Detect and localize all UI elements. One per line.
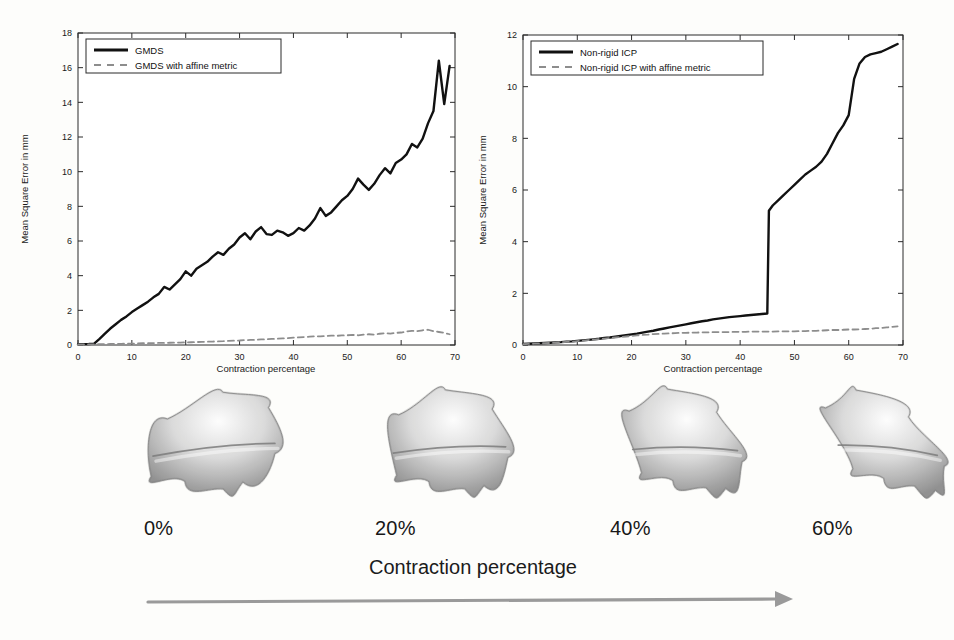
y-tick-label: 8 <box>67 202 72 212</box>
y-tick-label: 4 <box>512 237 517 247</box>
legend-right: Non-rigid ICPNon-rigid ICP with affine m… <box>531 41 763 75</box>
y-tick-label: 14 <box>62 98 72 108</box>
y-tick-label: 4 <box>67 271 72 281</box>
x-tick-label: 0 <box>520 352 525 362</box>
chart-nonrigid-icp: 024681012 010203040506070 Mean Square Er… <box>470 0 946 390</box>
y-tick-label: 18 <box>62 28 72 38</box>
y-tick-label: 8 <box>512 134 517 144</box>
shape-40-percent: 40% <box>588 385 778 560</box>
y-tick-label: 2 <box>67 306 72 316</box>
x-tick-label: 0 <box>75 352 80 362</box>
x-tick-label: 30 <box>681 352 691 362</box>
shape-caption-2: 40% <box>610 517 651 540</box>
shape-caption-0: 0% <box>144 517 173 540</box>
y-axis-label-left: Mean Square Error in mm <box>19 134 30 243</box>
x-tick-label: 30 <box>235 352 245 362</box>
y-tick-label: 0 <box>67 340 72 350</box>
y-tick-label: 16 <box>62 63 72 73</box>
y-tick-label: 0 <box>512 340 517 350</box>
shape-60-percent: 60% <box>790 385 954 560</box>
shape-0-percent: 0% <box>118 385 308 560</box>
shape-caption-1: 20% <box>375 517 416 540</box>
x-tick-label: 70 <box>898 352 908 362</box>
x-tick-label: 20 <box>627 352 637 362</box>
x-tick-label: 60 <box>844 352 854 362</box>
x-tick-label: 10 <box>127 352 137 362</box>
legend-left: GMDSGMDS with affine metric <box>86 39 281 73</box>
plot-frame-right <box>523 35 903 345</box>
shape-caption-3: 60% <box>812 517 853 540</box>
arrow-shaft <box>148 599 775 602</box>
arrow-svg <box>0 578 946 638</box>
x-tick-label: 50 <box>789 352 799 362</box>
x-axis-label-right: Contraction percentage <box>664 363 763 374</box>
x-tick-label: 50 <box>342 352 352 362</box>
x-tick-label: 20 <box>181 352 191 362</box>
y-tick-label: 10 <box>507 82 517 92</box>
contraction-axis-arrow: Contraction percentage <box>0 560 946 640</box>
shape-20-percent: 20% <box>353 385 543 560</box>
x-axis-label-left: Contraction percentage <box>217 363 316 374</box>
chart-gmds: 024681012141618 010203040506070 Mean Squ… <box>0 0 470 390</box>
x-tick-label: 70 <box>450 352 460 362</box>
y-tick-label: 12 <box>62 132 72 142</box>
contraction-axis-label: Contraction percentage <box>0 556 946 579</box>
y-tick-label: 10 <box>62 167 72 177</box>
y-axis-label-right: Mean Square Error in mm <box>477 135 488 244</box>
legend-label: GMDS <box>135 45 164 56</box>
x-tick-label: 40 <box>288 352 298 362</box>
x-tick-label: 10 <box>572 352 582 362</box>
y-tick-label: 12 <box>507 30 517 40</box>
chart-nonrigid-icp-svg: 024681012 010203040506070 Mean Square Er… <box>470 0 946 390</box>
y-tick-label: 2 <box>512 289 517 299</box>
shape-sequence: 0% 20% <box>0 385 946 560</box>
legend-label: GMDS with affine metric <box>135 60 237 71</box>
x-tick-label: 60 <box>396 352 406 362</box>
x-tick-label: 40 <box>735 352 745 362</box>
shape-body <box>622 386 747 498</box>
plot-frame-left <box>78 33 455 345</box>
legend-label: Non-rigid ICP <box>580 47 637 58</box>
y-tick-label: 6 <box>67 236 72 246</box>
arrow-head <box>775 591 793 607</box>
chart-gmds-svg: 024681012141618 010203040506070 Mean Squ… <box>0 0 470 390</box>
y-tick-label: 6 <box>512 185 517 195</box>
legend-label: Non-rigid ICP with affine metric <box>580 62 711 73</box>
